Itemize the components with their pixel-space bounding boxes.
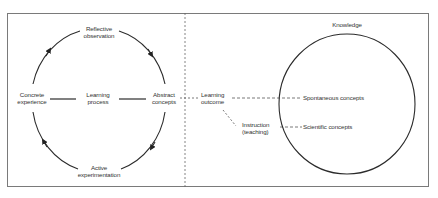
- label-scientific-concepts: Scientific concepts: [303, 123, 352, 130]
- arrow-up-left-icon: [44, 141, 48, 147]
- label-line: concepts: [146, 98, 182, 105]
- label-line: (teaching): [242, 128, 269, 135]
- label-instruction-teaching: Instruction (teaching): [242, 121, 269, 136]
- label-line: observation: [76, 32, 122, 39]
- label-reflective-observation: Reflective observation: [76, 25, 122, 40]
- label-line: Instruction: [242, 121, 269, 128]
- label-line: Reflective: [76, 25, 122, 32]
- label-spontaneous-concepts: Spontaneous concepts: [303, 94, 364, 101]
- knowledge-circle: [279, 34, 415, 174]
- arrow-up-icon: [46, 50, 50, 56]
- label-line: outcome: [201, 98, 224, 105]
- label-line: Abstract: [146, 91, 182, 98]
- label-line: Concrete: [8, 91, 56, 98]
- label-line: Learning: [201, 91, 224, 98]
- label-line: Active: [68, 164, 130, 171]
- cycle-arc-bottom-right: [121, 112, 165, 169]
- cycle-arc-bottom-left: [33, 112, 78, 169]
- knowledge-title: Knowledge: [317, 21, 377, 28]
- label-line: experience: [8, 98, 56, 105]
- label-concrete-experience: Concrete experience: [8, 91, 56, 106]
- label-learning-outcome: Learning outcome: [201, 91, 224, 106]
- arrow-down-icon: [148, 49, 152, 55]
- label-line: Learning: [77, 91, 119, 98]
- label-line: experimentation: [68, 171, 130, 178]
- cycle-arc-top-right: [119, 31, 165, 84]
- label-learning-process: Learning process: [77, 91, 119, 106]
- label-line: process: [77, 98, 119, 105]
- dashed-outcome-instruction: [223, 110, 236, 126]
- cycle-arc-top-left: [33, 31, 80, 84]
- label-active-experimentation: Active experimentation: [68, 164, 130, 179]
- label-abstract-concepts: Abstract concepts: [146, 91, 182, 106]
